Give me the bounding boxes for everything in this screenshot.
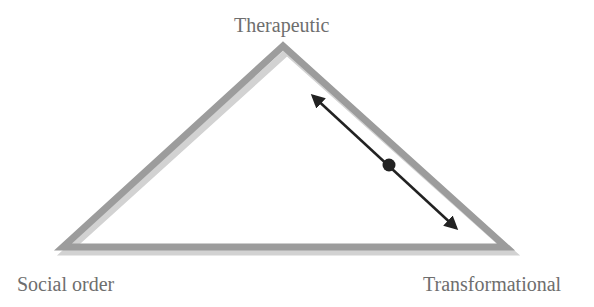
triangle-shadow [66, 52, 511, 252]
triangle-diagram [0, 0, 594, 307]
label-transformational: Transformational [423, 273, 561, 296]
label-therapeutic: Therapeutic [234, 14, 330, 37]
position-dot [383, 159, 396, 172]
label-social-order: Social order [17, 273, 114, 296]
triangle [63, 46, 506, 247]
